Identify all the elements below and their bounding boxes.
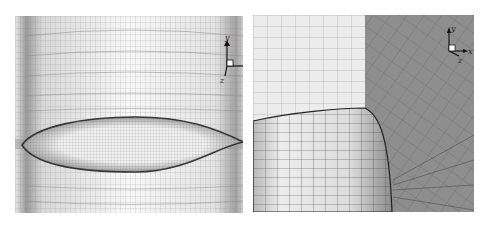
svg-text:z: z (219, 76, 225, 85)
left-mesh-image: y x z (15, 16, 243, 213)
right-mesh-panel: y x z (253, 15, 474, 212)
svg-text:x: x (468, 47, 473, 56)
svg-text:z: z (457, 56, 463, 65)
right-mesh-image: y x z (253, 15, 474, 212)
svg-text:y: y (224, 33, 230, 42)
svg-text:y: y (450, 24, 456, 33)
left-mesh-panel: y x z (15, 16, 243, 213)
